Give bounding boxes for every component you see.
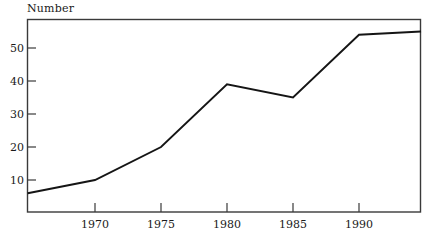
y-axis-tick-labels: 50 40 30 20 10 bbox=[10, 42, 24, 187]
x-tick-label-1970: 1970 bbox=[81, 218, 109, 231]
chart-figure: Number 50 40 30 20 10 bbox=[0, 0, 433, 245]
y-tick-label-40: 40 bbox=[10, 75, 24, 88]
plot-frame bbox=[28, 20, 421, 213]
line-chart-plot: 50 40 30 20 10 1970 1975 1980 1985 1990 bbox=[0, 0, 433, 245]
y-tick-label-50: 50 bbox=[10, 42, 24, 55]
y-tick-label-10: 10 bbox=[10, 174, 24, 187]
y-axis-ticks bbox=[28, 48, 37, 180]
y-tick-label-20: 20 bbox=[10, 141, 24, 154]
y-tick-label-30: 30 bbox=[10, 108, 24, 121]
x-tick-label-1975: 1975 bbox=[147, 218, 175, 231]
x-axis-tick-labels: 1970 1975 1980 1985 1990 bbox=[81, 218, 373, 231]
x-tick-label-1990: 1990 bbox=[345, 218, 373, 231]
x-tick-label-1985: 1985 bbox=[279, 218, 307, 231]
data-series-number bbox=[28, 32, 421, 194]
x-axis-ticks bbox=[95, 203, 359, 212]
x-tick-label-1980: 1980 bbox=[213, 218, 241, 231]
